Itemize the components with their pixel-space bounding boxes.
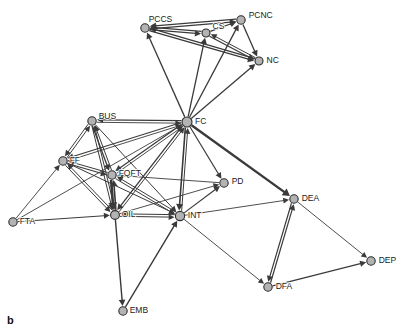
node-circle[interactable]: [202, 29, 210, 37]
node-label: NC: [267, 55, 279, 65]
node-label: FF: [70, 155, 80, 165]
graph-node-pd[interactable]: PD: [220, 176, 244, 187]
graph-edge: [117, 177, 176, 213]
node-circle[interactable]: [111, 211, 120, 220]
graph-edge: [184, 186, 220, 213]
arrowhead: [283, 198, 289, 204]
node-label: CS: [213, 21, 225, 31]
graph-edge: [298, 202, 367, 258]
arrowhead: [361, 252, 367, 258]
node-circle[interactable]: [9, 218, 17, 226]
graph-edge: [267, 203, 292, 282]
arrowhead: [104, 213, 110, 219]
arrowhead: [359, 261, 366, 267]
node-circle[interactable]: [119, 307, 127, 315]
graph-node-ff[interactable]: FF: [59, 155, 80, 165]
graph-edge: [149, 31, 254, 63]
panel-caption: b: [7, 314, 14, 326]
arrowhead: [84, 126, 90, 133]
graph-node-int[interactable]: INT: [175, 210, 201, 221]
node-circle[interactable]: [220, 179, 228, 187]
graph-edge: [147, 33, 185, 117]
graph-node-oil[interactable]: OIL: [111, 209, 136, 219]
graph-edge: [184, 219, 264, 284]
graph-node-pcnc[interactable]: PCNC: [237, 10, 273, 24]
graph-node-fc[interactable]: FC: [182, 116, 206, 127]
arrowhead: [119, 300, 126, 307]
graph-edge: [191, 64, 255, 118]
graph-node-dfa[interactable]: DFA: [264, 281, 293, 291]
network-graph-svg: PCCSCSPCNCNCFCBUSFFFQFTPDOILINTFTADEADEP…: [0, 0, 402, 334]
arrowhead: [54, 165, 60, 171]
graph-node-fta[interactable]: FTA: [9, 216, 36, 226]
arrowhead: [258, 278, 264, 284]
node-circle[interactable]: [367, 257, 375, 265]
node-circle[interactable]: [175, 211, 184, 220]
node-label: INT: [188, 210, 202, 220]
graph-edge: [68, 124, 182, 161]
node-label: BUS: [99, 111, 117, 121]
graph-edge: [16, 165, 60, 218]
graph-node-dep[interactable]: DEP: [367, 255, 397, 265]
node-circle[interactable]: [182, 117, 192, 127]
graph-node-emb[interactable]: EMB: [119, 305, 149, 315]
node-circle[interactable]: [264, 283, 272, 291]
node-label: OIL: [122, 209, 136, 219]
graph-edge: [125, 221, 177, 307]
node-label: DFA: [276, 281, 293, 291]
graph-edge: [209, 36, 254, 60]
node-label: FQFT: [119, 168, 141, 178]
graph-edge: [115, 220, 125, 306]
graph-node-bus[interactable]: BUS: [88, 111, 117, 125]
node-label: FTA: [20, 216, 36, 226]
node-label: PCNC: [249, 10, 273, 20]
node-label: PD: [232, 176, 244, 186]
node-label: DEP: [379, 255, 397, 265]
node-circle[interactable]: [88, 117, 96, 125]
node-label: DEA: [302, 193, 320, 203]
graph-edge: [67, 126, 90, 158]
graph-node-nc[interactable]: NC: [255, 55, 279, 65]
graph-edge: [188, 38, 207, 117]
node-circle[interactable]: [290, 195, 298, 203]
graph-edge: [176, 127, 185, 210]
network-figure: PCCSCSPCNCNCFCBUSFFFQFTPDOILINTFTADEADEP…: [0, 0, 402, 334]
node-label: FC: [195, 116, 206, 126]
node-circle[interactable]: [255, 57, 263, 65]
node-label: PCCS: [149, 14, 173, 24]
graph-edge: [271, 204, 296, 283]
graph-node-fqft[interactable]: FQFT: [108, 168, 141, 179]
graph-node-dea[interactable]: DEA: [290, 193, 320, 203]
node-circle[interactable]: [141, 24, 149, 32]
node-circle[interactable]: [237, 16, 245, 24]
graph-edge: [117, 126, 183, 173]
node-circle[interactable]: [59, 157, 67, 165]
node-circle[interactable]: [108, 171, 116, 179]
node-label: EMB: [130, 305, 149, 315]
